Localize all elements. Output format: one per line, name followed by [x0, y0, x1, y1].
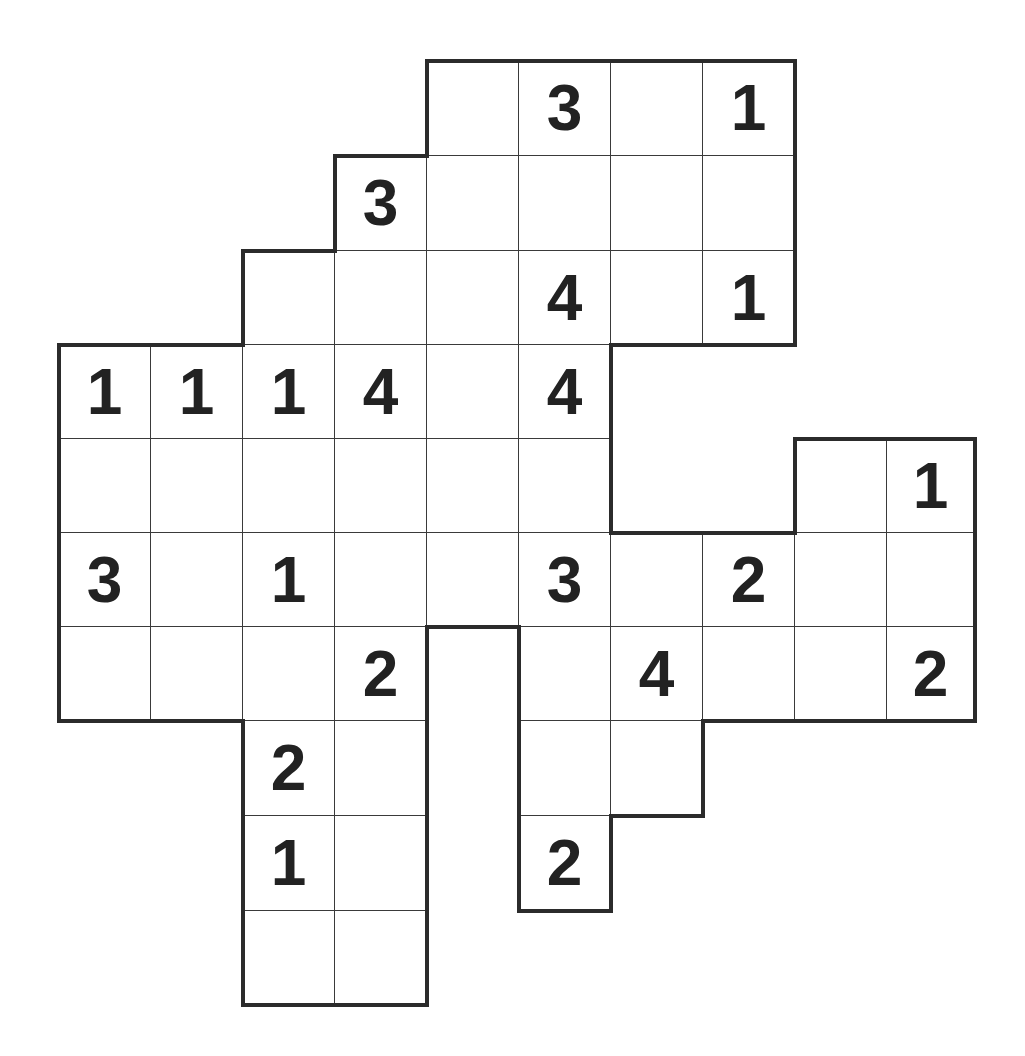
region-border [517, 719, 521, 818]
grid-cell-r2-c6[interactable] [610, 250, 703, 345]
grid-cell-r2-c7[interactable]: 1 [702, 250, 795, 345]
grid-cell-r6-c0[interactable] [58, 626, 151, 721]
grid-cell-r3-c2[interactable]: 1 [242, 344, 335, 439]
region-border [973, 625, 977, 723]
grid-cell-r5-c6[interactable] [610, 532, 703, 627]
region-border [609, 437, 613, 535]
grid-cell-r4-c1[interactable] [150, 438, 243, 533]
region-border [425, 59, 429, 158]
grid-cell-r1-c4[interactable] [426, 155, 519, 251]
grid-cell-r3-c0[interactable]: 1 [58, 344, 151, 439]
grid-cell-r4-c4[interactable] [426, 438, 519, 533]
region-border [241, 249, 337, 253]
region-border [425, 814, 429, 913]
grid-cell-r5-c0[interactable]: 3 [58, 532, 151, 627]
region-border [425, 59, 521, 63]
region-border [973, 531, 977, 629]
puzzle-board: 313411114413132242212 [0, 0, 1025, 1056]
grid-cell-r9-c2[interactable] [242, 910, 335, 1005]
grid-cell-r4-c2[interactable] [242, 438, 335, 533]
region-border [517, 814, 521, 913]
grid-cell-r3-c3[interactable]: 4 [334, 344, 427, 439]
grid-cell-r4-c0[interactable] [58, 438, 151, 533]
region-border [793, 154, 797, 253]
region-border [57, 531, 61, 629]
grid-cell-r0-c4[interactable] [426, 60, 519, 156]
region-border [241, 1003, 337, 1007]
grid-cell-r6-c1[interactable] [150, 626, 243, 721]
region-border [609, 59, 705, 63]
grid-cell-r5-c5[interactable]: 3 [518, 532, 611, 627]
grid-cell-r1-c6[interactable] [610, 155, 703, 251]
region-border [517, 625, 521, 723]
grid-cell-r6-c5[interactable] [518, 626, 611, 721]
grid-cell-r2-c4[interactable] [426, 250, 519, 345]
grid-cell-r7-c5[interactable] [518, 720, 611, 816]
grid-cell-r7-c3[interactable] [334, 720, 427, 816]
grid-cell-r5-c1[interactable] [150, 532, 243, 627]
region-border [793, 437, 889, 441]
grid-cell-r6-c6[interactable]: 4 [610, 626, 703, 721]
region-border [609, 343, 613, 441]
grid-cell-r0-c6[interactable] [610, 60, 703, 156]
region-border [241, 814, 245, 913]
grid-cell-r6-c2[interactable] [242, 626, 335, 721]
grid-cell-r7-c6[interactable] [610, 720, 703, 816]
region-border [425, 625, 429, 723]
region-border [57, 343, 61, 441]
region-border [701, 531, 797, 535]
grid-cell-r5-c8[interactable] [794, 532, 887, 627]
grid-cell-r8-c2[interactable]: 1 [242, 815, 335, 911]
grid-cell-r5-c9[interactable] [886, 532, 975, 627]
grid-cell-r1-c7[interactable] [702, 155, 795, 251]
region-border [701, 59, 797, 63]
grid-cell-r8-c3[interactable] [334, 815, 427, 911]
grid-cell-r0-c7[interactable]: 1 [702, 60, 795, 156]
region-border [57, 625, 61, 723]
region-border [609, 531, 705, 535]
grid-cell-r7-c2[interactable]: 2 [242, 720, 335, 816]
grid-cell-r5-c2[interactable]: 1 [242, 532, 335, 627]
grid-cell-r6-c7[interactable] [702, 626, 795, 721]
region-border [425, 719, 429, 818]
grid-cell-r3-c5[interactable]: 4 [518, 344, 611, 439]
region-border [149, 343, 245, 347]
region-border [701, 343, 797, 347]
region-border [425, 909, 429, 1007]
grid-cell-r1-c5[interactable] [518, 155, 611, 251]
region-border [701, 719, 705, 818]
region-border [885, 437, 977, 441]
grid-cell-r3-c4[interactable] [426, 344, 519, 439]
region-border [793, 59, 797, 158]
grid-cell-r4-c8[interactable] [794, 438, 887, 533]
grid-cell-r5-c7[interactable]: 2 [702, 532, 795, 627]
region-border [57, 437, 61, 535]
grid-cell-r4-c5[interactable] [518, 438, 611, 533]
region-border [609, 814, 613, 913]
region-border [241, 719, 245, 818]
region-border [241, 909, 245, 1007]
grid-cell-r2-c2[interactable] [242, 250, 335, 345]
grid-cell-r0-c5[interactable]: 3 [518, 60, 611, 156]
grid-cell-r6-c3[interactable]: 2 [334, 626, 427, 721]
grid-cell-r5-c3[interactable] [334, 532, 427, 627]
grid-cell-r4-c3[interactable] [334, 438, 427, 533]
grid-cell-r6-c9[interactable]: 2 [886, 626, 975, 721]
grid-cell-r1-c3[interactable]: 3 [334, 155, 427, 251]
region-border [425, 625, 521, 629]
region-border [609, 814, 705, 818]
region-border [701, 719, 797, 723]
region-border [57, 719, 153, 723]
grid-cell-r3-c1[interactable]: 1 [150, 344, 243, 439]
grid-cell-r6-c8[interactable] [794, 626, 887, 721]
region-border [333, 154, 337, 253]
grid-cell-r2-c3[interactable] [334, 250, 427, 345]
grid-cell-r8-c5[interactable]: 2 [518, 815, 611, 911]
grid-cell-r2-c5[interactable]: 4 [518, 250, 611, 345]
grid-cell-r5-c4[interactable] [426, 532, 519, 627]
region-border [57, 343, 153, 347]
region-border [333, 154, 429, 158]
region-border [517, 59, 613, 63]
grid-cell-r4-c9[interactable]: 1 [886, 438, 975, 533]
grid-cell-r9-c3[interactable] [334, 910, 427, 1005]
